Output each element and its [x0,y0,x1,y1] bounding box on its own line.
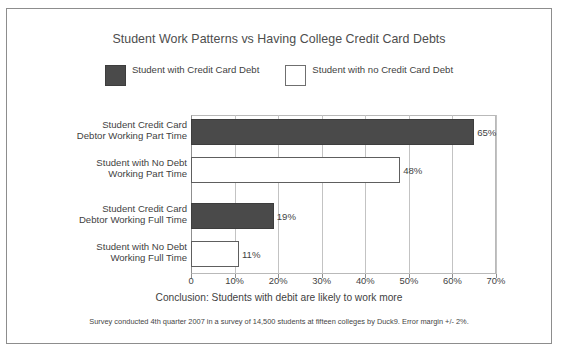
bar-row: 48% [191,157,496,183]
bar-row: 65% [191,119,496,145]
chart-frame: Student Work Patterns vs Having College … [6,8,552,344]
legend-swatch-hollow-icon [285,65,306,86]
bar-value-label: 65% [474,127,496,138]
x-axis-tick-label: 0 [188,275,193,286]
bar-row: 19% [191,203,496,229]
chart-legend: Student with Credit Card Debt Student wi… [7,64,551,86]
bar [191,157,400,183]
category-label-2: Student Credit Card Debtor Working Full … [17,203,187,226]
plot-area: 65%48%19%11% [191,115,496,274]
bar [191,203,274,229]
x-axis-tick-label: 60% [443,275,462,286]
legend-swatch-filled-icon [105,65,126,86]
conclusion-text: Conclusion: Students with debit are like… [7,292,551,303]
x-axis-tick-label: 10% [225,275,244,286]
legend-item-no-debt: Student with no Credit Card Debt [285,64,453,86]
category-label-0: Student Credit Card Debtor Working Part … [17,119,187,142]
bar [191,241,239,267]
bar-value-label: 11% [239,249,261,260]
category-axis-labels: Student Credit Card Debtor Working Part … [15,115,187,274]
bar-value-label: 19% [274,211,296,222]
x-axis-tick-label: 20% [269,275,288,286]
legend-item-with-debt: Student with Credit Card Debt [105,64,259,86]
legend-label-no-debt: Student with no Credit Card Debt [312,64,453,75]
x-axis-tick-label: 50% [399,275,418,286]
bar [191,119,474,145]
legend-label-with-debt: Student with Credit Card Debt [132,64,259,75]
category-label-1: Student with No Debt Working Part Time [17,157,187,180]
footnote-text: Survey conducted 4th quarter 2007 in a s… [7,317,551,326]
x-axis-tick-label: 30% [312,275,331,286]
chart-title: Student Work Patterns vs Having College … [7,32,551,46]
x-axis-tick-label: 40% [356,275,375,286]
category-label-3: Student with No Debt Working Full Time [17,241,187,264]
bar-value-label: 48% [400,165,422,176]
x-axis-tick-label: 70% [487,275,506,286]
bar-row: 11% [191,241,496,267]
gridline [496,115,497,274]
